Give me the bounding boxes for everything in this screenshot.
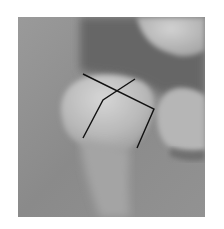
radiograph-canvas xyxy=(18,17,205,217)
adjacent-molar xyxy=(157,88,205,151)
dental-radiograph xyxy=(18,17,205,217)
